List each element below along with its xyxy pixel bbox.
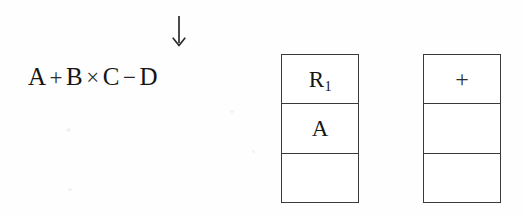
register-stack-cell-middle: A xyxy=(282,104,358,153)
operator-stack-cell-top-label: + xyxy=(455,67,469,91)
scan-speckle xyxy=(230,110,234,113)
expression-token-operand-b: B xyxy=(66,62,83,92)
scan-speckle xyxy=(68,188,72,191)
diagram-canvas: A+B×C−D R1 A + xyxy=(0,0,524,216)
operator-stack-cell-middle xyxy=(424,104,500,153)
register-stack-cell-middle-label: A xyxy=(312,117,329,140)
register-stack-cell-bottom xyxy=(282,154,358,202)
register-stack: R1 A xyxy=(281,54,359,203)
operator-stack-cell-top: + xyxy=(424,55,500,104)
expression-token-operand-c: C xyxy=(103,62,120,92)
operator-stack-cell-bottom xyxy=(424,154,500,202)
expression-token-operator-plus: + xyxy=(47,63,66,93)
scan-speckle xyxy=(252,150,255,153)
expression-token-operand-a: A xyxy=(28,62,47,92)
expression-token-operand-d: D xyxy=(139,62,158,92)
operator-stack: + xyxy=(423,54,501,203)
expression-token-operator-minus: − xyxy=(120,63,139,93)
expression-token-operator-times: × xyxy=(83,63,102,93)
expression-text: A+B×C−D xyxy=(28,62,158,93)
register-stack-cell-top: R1 xyxy=(282,55,358,104)
down-arrow-icon xyxy=(168,14,190,50)
scan-speckle xyxy=(66,128,71,132)
register-stack-cell-top-label: R1 xyxy=(309,68,331,91)
